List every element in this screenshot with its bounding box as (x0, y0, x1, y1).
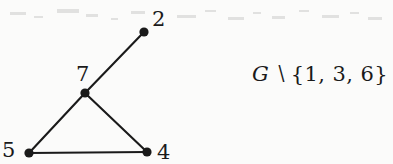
graph-symbol: G (252, 62, 269, 86)
graph-edge-7-5 (29, 93, 85, 153)
figure-canvas: 2754 G∖{1, 3, 6} (0, 0, 393, 164)
graph-edge-7-2 (85, 32, 144, 93)
graph-node-label-2: 2 (152, 9, 165, 30)
graph-node-2 (139, 27, 148, 36)
graph-node-7 (80, 88, 89, 97)
removed-vertex-set: {1, 3, 6} (291, 62, 388, 86)
set-difference-caption: G∖{1, 3, 6} (252, 64, 388, 85)
graph-edge-7-4 (85, 93, 147, 152)
graph-edge-5-4 (29, 152, 147, 153)
graph-node-label-7: 7 (76, 64, 89, 85)
graph-node-label-4: 4 (157, 142, 170, 163)
graph-node-label-5: 5 (2, 140, 15, 161)
graph-node-4 (142, 147, 151, 156)
set-minus-icon: ∖ (270, 64, 289, 85)
graph-node-5 (24, 148, 33, 157)
